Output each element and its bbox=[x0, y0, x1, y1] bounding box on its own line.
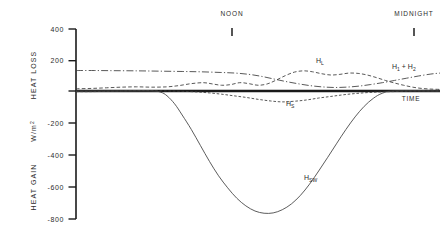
time-marker-noon: NOON bbox=[220, 10, 243, 36]
curve-label-hl-sub: L bbox=[321, 60, 324, 66]
curve-label-hs: HS bbox=[286, 100, 295, 109]
y-axis-units-text: W/m bbox=[30, 124, 37, 142]
curve-label-hl: HL bbox=[316, 57, 324, 66]
svg-text:HS: HS bbox=[286, 100, 295, 109]
time-marker-midnight: MIDNIGHT bbox=[394, 10, 433, 36]
y-tick-label-minus800: -800 bbox=[48, 216, 64, 223]
time-marker-noon-label: NOON bbox=[220, 10, 243, 17]
svg-text:H1 + H2: H1 + H2 bbox=[392, 63, 416, 72]
curve-hsw bbox=[76, 91, 440, 214]
svg-text:W/m2: W/m2 bbox=[29, 120, 38, 142]
y-tick-label-minus400: -400 bbox=[48, 152, 64, 159]
svg-text:HL: HL bbox=[316, 57, 324, 66]
y-tick-label-400: 400 bbox=[51, 26, 64, 33]
y-axis-title-heat-gain: HEAT GAIN bbox=[30, 164, 37, 211]
time-marker-midnight-label: MIDNIGHT bbox=[394, 10, 433, 17]
chart-canvas: 400 200 -200 -400 -600 -800 HEAT LOSS W/… bbox=[0, 0, 446, 238]
y-tick-label-minus600: -600 bbox=[48, 184, 64, 191]
y-axis-title-units: W/m2 bbox=[29, 120, 38, 142]
heat-flux-chart-figure: 400 200 -200 -400 -600 -800 HEAT LOSS W/… bbox=[0, 0, 446, 238]
curve-label-h1-h2: H1 + H2 bbox=[392, 63, 416, 72]
y-tick-label-minus200: -200 bbox=[48, 120, 64, 127]
y-axis-tick-labels: 400 200 -200 -400 -600 -800 bbox=[48, 26, 64, 223]
curve-hl bbox=[76, 71, 440, 90]
curve-label-hsw-sub: SW bbox=[309, 177, 317, 183]
y-axis-ticks bbox=[69, 29, 77, 219]
y-axis-title-heat-loss: HEAT LOSS bbox=[30, 51, 37, 100]
curve-label-hs-sub: S bbox=[291, 103, 295, 109]
y-tick-label-200: 200 bbox=[51, 57, 64, 64]
x-axis-title-time: TIME bbox=[402, 95, 421, 102]
